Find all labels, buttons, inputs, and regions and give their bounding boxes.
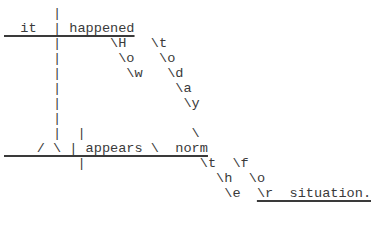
diagram-line-stem: | xyxy=(4,111,371,126)
diagram-line-modifiers-3: | \w \d xyxy=(4,66,371,81)
diagram-line-modifiers-5: | \y xyxy=(4,96,371,111)
prepositional-object-baseline: \r situation. xyxy=(257,186,371,201)
diagram-line-main-clause: it | happened xyxy=(4,21,371,36)
article-the-tail: \e xyxy=(4,186,257,201)
diagram-line-sub-modifiers-3: \e \r situation. xyxy=(4,186,371,201)
diagram-line-stem-2: | | \ xyxy=(4,126,371,141)
diagram-line-modifiers-2: | \o \o xyxy=(4,51,371,66)
subclause-baseline: / \ | appears \ norm xyxy=(4,141,208,156)
sentence-diagram: | it | happened | \H \t | \o \o | \w \d … xyxy=(4,6,371,201)
diagram-line-top-bar: | xyxy=(4,6,371,21)
diagram-line-subclause: / \ | appears \ norm xyxy=(4,141,371,156)
diagram-line-modifiers-1: | \H \t xyxy=(4,36,371,51)
diagram-line-sub-modifiers-1: | \t \f xyxy=(4,156,371,171)
main-baseline: it | happened xyxy=(4,21,135,36)
diagram-line-modifiers-4: | \a xyxy=(4,81,371,96)
diagram-line-sub-modifiers-2: \h \o xyxy=(4,171,371,186)
